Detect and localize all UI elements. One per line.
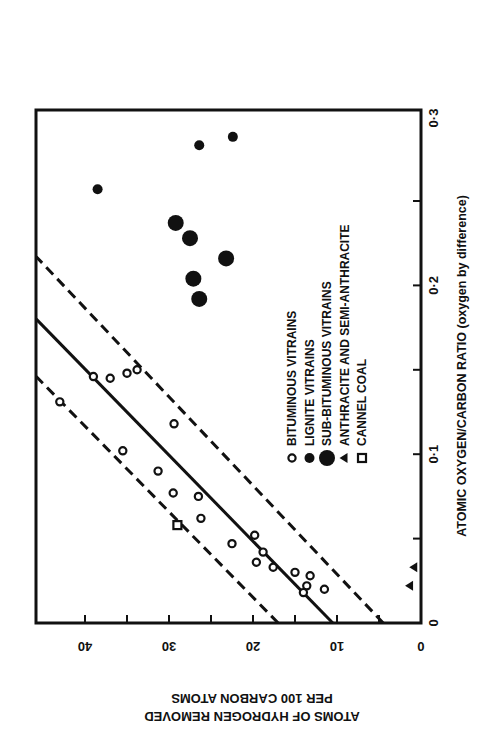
data-point bbox=[185, 271, 201, 287]
data-point bbox=[170, 420, 177, 427]
data-point bbox=[259, 549, 266, 556]
legend-marker-icon bbox=[358, 454, 366, 462]
data-point bbox=[173, 521, 181, 529]
data-point bbox=[133, 366, 140, 373]
data-point bbox=[300, 589, 307, 596]
data-point bbox=[194, 140, 204, 150]
hydrogen-tick-label: 0 bbox=[417, 639, 424, 654]
data-point bbox=[56, 398, 63, 405]
data-point bbox=[228, 540, 235, 547]
hydrogen-axis-title: ATOMS OF HYDROGEN REMOVED PER 100 CARBON… bbox=[144, 691, 359, 724]
oxygen-tick-label: 0 bbox=[426, 619, 441, 626]
data-point bbox=[405, 581, 413, 591]
legend-marker-icon bbox=[340, 453, 348, 463]
legend-label: SUB-BITUMINOUS VITRAINS bbox=[320, 281, 334, 446]
data-point bbox=[321, 586, 328, 593]
legend-marker-icon bbox=[305, 453, 315, 463]
hydrogen-axis-title-line-2: PER 100 CARBON ATOMS bbox=[171, 691, 333, 706]
data-point bbox=[195, 493, 202, 500]
data-point bbox=[228, 132, 238, 142]
data-point bbox=[182, 230, 198, 246]
data-point bbox=[251, 532, 258, 539]
oxygen-axis-title: ATOMIC OXYGEN/CARBON RATIO (oxygen by di… bbox=[455, 195, 469, 537]
data-point bbox=[93, 184, 103, 194]
data-point bbox=[170, 489, 177, 496]
data-point bbox=[197, 515, 204, 522]
data-point bbox=[119, 447, 126, 454]
legend-marker-icon bbox=[288, 454, 295, 461]
confidence-bound-line bbox=[36, 377, 278, 623]
hydrogen-tick-label: 30 bbox=[162, 639, 176, 654]
oxygen-tick-label: 0·1 bbox=[426, 445, 441, 464]
hydrogen-tick-label: 10 bbox=[330, 639, 344, 654]
data-point bbox=[107, 375, 114, 382]
legend: BITUMINOUS VITRAINSLIGNITE VITRAINSSUB-B… bbox=[285, 224, 369, 466]
hydrogen-tick-label: 20 bbox=[246, 639, 260, 654]
data-point bbox=[90, 373, 97, 380]
data-point bbox=[307, 572, 314, 579]
data-point bbox=[409, 562, 417, 572]
data-point bbox=[218, 250, 234, 266]
data-point bbox=[191, 291, 207, 307]
hydrogen-axis-ticks: 010203040 bbox=[78, 615, 425, 654]
legend-label: ANTHRACITE AND SEMI-ANTHRACITE bbox=[338, 224, 352, 446]
data-point bbox=[291, 569, 298, 576]
data-point bbox=[154, 467, 161, 474]
oxygen-axis-ticks: 00·10·20·3 bbox=[413, 109, 441, 627]
hydrogen-axis-title-line-1: ATOMS OF HYDROGEN REMOVED bbox=[144, 709, 359, 724]
legend-label: LIGNITE VITRAINS bbox=[303, 339, 317, 446]
data-point bbox=[253, 559, 260, 566]
data-point bbox=[168, 215, 184, 231]
data-point bbox=[123, 370, 130, 377]
oxygen-tick-label: 0·2 bbox=[426, 276, 441, 295]
hydrogen-tick-label: 40 bbox=[78, 639, 92, 654]
legend-label: BITUMINOUS VITRAINS bbox=[285, 311, 299, 446]
oxygen-tick-label: 0·3 bbox=[426, 109, 441, 128]
rotated-scatter-chart: 010203040 00·10·20·3 BITUMINOUS VITRAINS… bbox=[0, 0, 503, 737]
legend-marker-icon bbox=[319, 450, 335, 466]
legend-label: CANNEL COAL bbox=[355, 359, 369, 446]
data-point bbox=[270, 564, 277, 571]
